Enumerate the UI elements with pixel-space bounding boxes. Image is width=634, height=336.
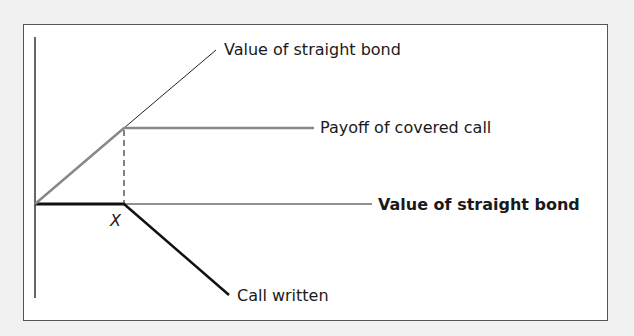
label-call-written: Call written xyxy=(237,288,329,304)
label-strike-x: X xyxy=(110,213,121,229)
label-straight-bond-bold: Value of straight bond xyxy=(378,197,580,213)
straight-bond-line xyxy=(124,50,216,128)
label-covered-call: Payoff of covered call xyxy=(320,120,491,136)
covered-call-line xyxy=(35,128,314,204)
call-written-line xyxy=(124,204,229,295)
label-straight-bond-top: Value of straight bond xyxy=(224,42,401,58)
